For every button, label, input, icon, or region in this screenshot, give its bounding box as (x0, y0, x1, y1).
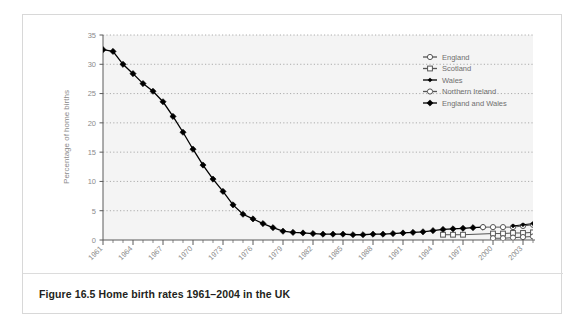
figure-caption-bar: Figure 16.5 Home birth rates 1961–2004 i… (23, 273, 563, 313)
y-axis-ticks: 05101520253035 (88, 31, 103, 245)
x-tick-label: 1997 (446, 244, 464, 262)
x-axis-tick-labels: 1961196419671970197319761979198219851988… (86, 244, 524, 262)
legend-item-label: England and Wales (442, 99, 507, 108)
y-tick-label: 35 (88, 31, 96, 40)
x-tick-label: 1994 (416, 244, 434, 262)
y-axis-title: Percentage of home births (62, 90, 71, 184)
y-tick-label: 5 (92, 207, 96, 216)
chart-plot-area: 05101520253035 1961196419671970197319761… (23, 15, 563, 273)
x-tick-label: 1967 (146, 244, 164, 262)
legend-item-label: Northern Ireland (442, 87, 496, 96)
x-tick-label: 2003 (506, 244, 524, 262)
y-tick-label: 15 (88, 148, 96, 157)
x-tick-label: 1976 (236, 244, 254, 262)
x-axis-ticks (103, 240, 533, 245)
figure-container: 05101520253035 1961196419671970197319761… (22, 14, 562, 314)
x-tick-label: 2000 (476, 244, 494, 262)
x-tick-label: 1982 (296, 244, 314, 262)
legend-item-label: Scotland (442, 64, 471, 73)
figure-caption-text: Figure 16.5 Home birth rates 1961–2004 i… (23, 288, 290, 300)
legend-item-label: England (442, 53, 470, 62)
legend-item-label: Wales (442, 76, 463, 85)
x-tick-label: 1973 (206, 244, 224, 262)
x-tick-label: 1970 (176, 244, 194, 262)
x-tick-label: 1991 (386, 244, 404, 262)
line-chart-svg: 05101520253035 1961196419671970197319761… (23, 15, 563, 273)
x-tick-label: 1985 (326, 244, 344, 262)
y-tick-label: 10 (88, 177, 96, 186)
x-tick-label: 1961 (86, 244, 104, 262)
y-tick-label: 30 (88, 60, 96, 69)
y-tick-label: 20 (88, 119, 96, 128)
x-tick-label: 1988 (356, 244, 374, 262)
y-tick-label: 0 (92, 236, 96, 245)
y-tick-label: 25 (88, 89, 96, 98)
x-tick-label: 1964 (116, 244, 134, 262)
x-tick-label: 1979 (266, 244, 284, 262)
